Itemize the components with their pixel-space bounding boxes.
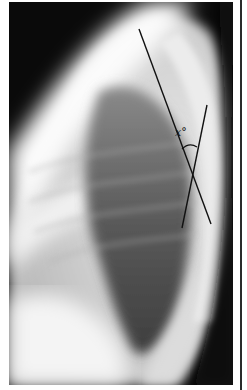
xray-graphic [9, 2, 233, 385]
page-edge-rule [240, 0, 242, 390]
xray-image: x° [9, 2, 233, 385]
angle-label: x° [175, 126, 187, 139]
